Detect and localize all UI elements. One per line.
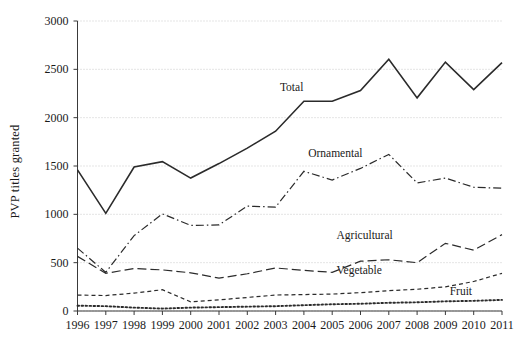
series-line-vegetable (78, 273, 503, 302)
y-tick-label: 2500 (25, 63, 69, 75)
x-tick-label: 2011 (482, 319, 518, 331)
series-label-total: Total (280, 81, 303, 93)
y-tick-label: 500 (25, 257, 69, 269)
series-line-agricultural (78, 235, 503, 279)
series-line-fruit (78, 300, 503, 309)
series-label-vegetable: Vegetable (337, 264, 382, 276)
series-label-fruit: Fruit (450, 285, 472, 297)
y-tick-label: 0 (25, 305, 69, 317)
y-tick-label: 1000 (25, 208, 69, 220)
series-label-ornamental: Ornamental (308, 147, 362, 159)
y-tick-label: 3000 (25, 15, 69, 27)
series-label-agricultural: Agricultural (337, 229, 393, 241)
series-line-ornamental (78, 154, 503, 272)
y-tick-label: 2000 (25, 112, 69, 124)
y-tick-label: 1500 (25, 160, 69, 172)
